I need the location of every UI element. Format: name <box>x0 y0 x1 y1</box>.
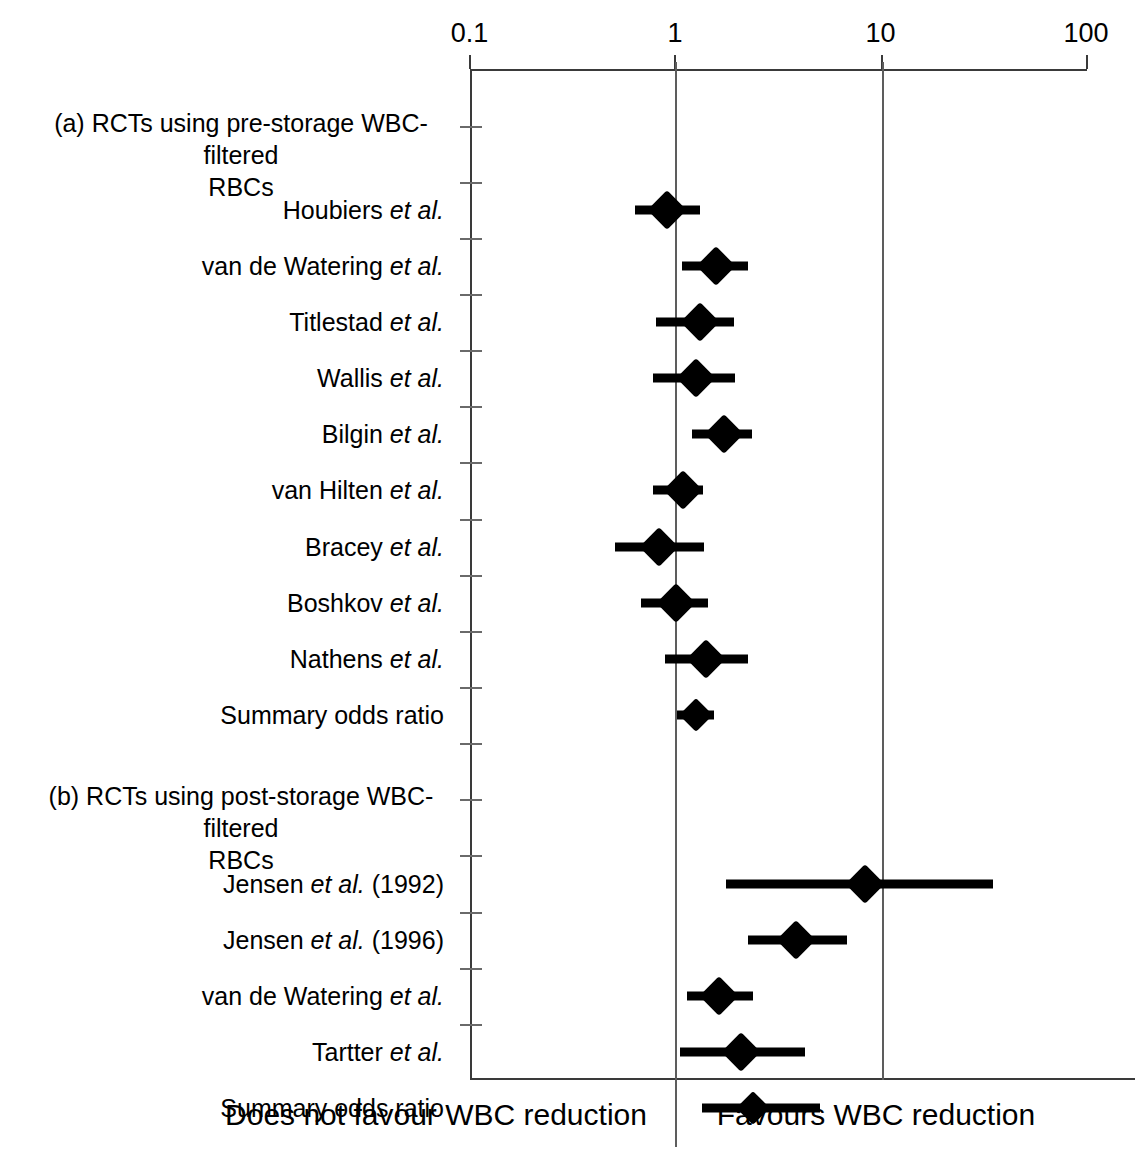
point-estimate-diamond <box>777 920 817 960</box>
et-al-italic: et al. <box>390 420 444 448</box>
study-label: Houbiers et al. <box>283 195 444 225</box>
point-estimate-diamond <box>697 246 737 286</box>
point-estimate-diamond <box>699 976 739 1016</box>
x-tick-label-1: 1 <box>667 20 682 47</box>
study-name: Bracey <box>305 533 390 561</box>
section-heading-b: (b) RCTs using post-storage WBC-filtered… <box>20 780 462 876</box>
study-name: Titlestad <box>289 308 390 336</box>
y-tick-6 <box>460 462 482 464</box>
study-name: Bilgin <box>322 420 390 448</box>
study-name: Nathens <box>290 645 390 673</box>
section-heading-line1: (a) RCTs using pre-storage WBC-filtered <box>20 107 462 171</box>
study-name: van de Watering <box>202 982 390 1010</box>
study-label: Jensen et al. (1996) <box>223 925 444 955</box>
study-name: Wallis <box>317 364 390 392</box>
study-label: Nathens et al. <box>290 644 444 674</box>
study-year: (1996) <box>365 926 444 954</box>
x-tick-label-10: 10 <box>865 20 895 47</box>
study-label: Boshkov et al. <box>287 588 444 618</box>
et-al-italic: et al. <box>390 645 444 673</box>
et-al-italic: et al. <box>390 476 444 504</box>
study-name: Jensen <box>223 926 311 954</box>
point-estimate-diamond <box>640 527 680 567</box>
point-estimate-diamond <box>845 864 885 904</box>
footer-caption-left: Does not favour WBC reduction <box>225 1100 647 1130</box>
y-tick-9 <box>460 631 482 633</box>
x-tick-0.1 <box>469 55 471 69</box>
y-tick-5 <box>460 406 482 408</box>
y-tick-2 <box>460 238 482 240</box>
section-heading-a: (a) RCTs using pre-storage WBC-filteredR… <box>20 107 462 203</box>
point-estimate-diamond <box>647 190 687 230</box>
x-tick-label-100: 100 <box>1063 20 1108 47</box>
point-estimate-diamond <box>686 639 726 679</box>
study-label: van de Watering et al. <box>202 251 444 281</box>
study-name: Houbiers <box>283 196 390 224</box>
point-estimate-diamond <box>679 698 713 732</box>
y-tick-8 <box>460 575 482 577</box>
study-name: Summary odds ratio <box>220 701 444 729</box>
y-tick-7 <box>460 519 482 521</box>
et-al-italic: et al. <box>390 982 444 1010</box>
y-tick-1 <box>460 182 482 184</box>
et-al-italic: et al. <box>390 1038 444 1066</box>
reference-line-10 <box>882 62 884 1080</box>
study-label: Bilgin et al. <box>322 419 444 449</box>
point-estimate-diamond <box>676 358 716 398</box>
point-estimate-diamond <box>680 302 720 342</box>
et-al-italic: et al. <box>311 926 365 954</box>
study-name: van Hilten <box>272 476 390 504</box>
et-al-italic: et al. <box>311 870 365 898</box>
study-year: (1992) <box>365 870 444 898</box>
study-label: van de Watering et al. <box>202 981 444 1011</box>
study-label: Titlestad et al. <box>289 307 444 337</box>
y-tick-13 <box>460 855 482 857</box>
study-name: Jensen <box>223 870 311 898</box>
footer-caption-right: Favours WBC reduction <box>717 1100 1035 1130</box>
study-label: Jensen et al. (1992) <box>223 869 444 899</box>
y-tick-10 <box>460 687 482 689</box>
et-al-italic: et al. <box>390 252 444 280</box>
study-label: Tartter et al. <box>312 1037 444 1067</box>
et-al-italic: et al. <box>390 589 444 617</box>
et-al-italic: et al. <box>390 196 444 224</box>
et-al-italic: et al. <box>390 364 444 392</box>
y-tick-14 <box>460 912 482 914</box>
x-tick-100 <box>1086 55 1088 69</box>
study-label: Wallis et al. <box>317 363 444 393</box>
bottom-axis-line <box>470 1078 1135 1080</box>
y-tick-12 <box>460 799 482 801</box>
point-estimate-diamond <box>705 415 745 455</box>
y-tick-4 <box>460 350 482 352</box>
y-tick-11 <box>460 743 482 745</box>
point-estimate-diamond <box>721 1032 761 1072</box>
point-estimate-diamond <box>656 583 696 623</box>
et-al-italic: et al. <box>390 308 444 336</box>
y-tick-3 <box>460 294 482 296</box>
section-heading-line1: (b) RCTs using post-storage WBC-filtered <box>20 780 462 844</box>
y-tick-15 <box>460 968 482 970</box>
study-name: Tartter <box>312 1038 390 1066</box>
study-label: Summary odds ratio <box>220 700 444 730</box>
study-label: van Hilten et al. <box>272 475 444 505</box>
y-tick-0 <box>460 126 482 128</box>
et-al-italic: et al. <box>390 533 444 561</box>
study-name: van de Watering <box>202 252 390 280</box>
x-tick-label-0.1: 0.1 <box>451 20 489 47</box>
point-estimate-diamond <box>663 471 703 511</box>
top-axis-line <box>470 69 1087 71</box>
y-tick-16 <box>460 1024 482 1026</box>
study-name: Boshkov <box>287 589 390 617</box>
study-label: Bracey et al. <box>305 532 444 562</box>
forest-plot-figure: 0.1110100 (a) RCTs using pre-storage WBC… <box>0 0 1135 1163</box>
